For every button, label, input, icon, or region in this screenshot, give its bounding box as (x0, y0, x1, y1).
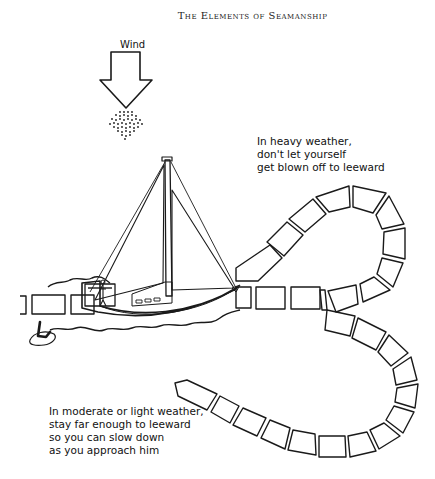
wind-arrow-icon (100, 52, 152, 140)
seamanship-illustration (0, 0, 435, 479)
wave-outline (48, 277, 240, 331)
wake-path-heavy-weather (236, 186, 405, 312)
wake-path-straight (20, 295, 94, 314)
person-overboard-icon (30, 322, 56, 345)
sailboat (82, 157, 240, 316)
wake-path-light-weather (175, 310, 418, 457)
wake-path-ahead (236, 287, 320, 309)
wind-stipple (109, 111, 143, 140)
